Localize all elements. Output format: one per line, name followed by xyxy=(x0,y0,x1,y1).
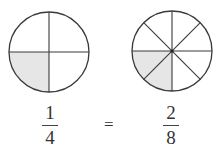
circle-quarters xyxy=(9,12,89,92)
denominator: 4 xyxy=(35,129,65,148)
numerator: 2 xyxy=(156,104,186,123)
denominator: 8 xyxy=(156,129,186,148)
fraction-one-quarter: 1 4 xyxy=(35,104,65,148)
numerator: 1 xyxy=(35,104,65,123)
fraction-bar xyxy=(42,125,58,126)
equals-sign: = xyxy=(104,116,114,133)
circle-eighths xyxy=(132,11,212,91)
fraction-two-eighths: 2 8 xyxy=(156,104,186,148)
fraction-bar xyxy=(163,125,179,126)
